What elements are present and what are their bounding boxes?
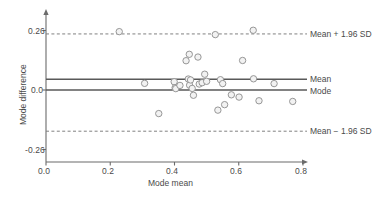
- data-point: [189, 85, 195, 91]
- data-point: [212, 31, 218, 37]
- data-point: [271, 80, 277, 86]
- data-point: [236, 94, 242, 100]
- data-point: [250, 76, 256, 82]
- data-point: [190, 92, 196, 98]
- xtick-label-1: 0.2: [102, 166, 114, 176]
- mean-label: Mean: [310, 74, 331, 84]
- xtick-label-0: 0.0: [38, 166, 50, 176]
- data-point: [202, 71, 208, 77]
- data-point: [215, 107, 221, 113]
- y-axis-arrow: [43, 9, 48, 15]
- upper-loa-label: Mean + 1.96 SD: [310, 29, 372, 39]
- data-point: [177, 82, 183, 88]
- ytick-label-1: 0.0: [31, 85, 43, 95]
- data-point: [183, 58, 189, 64]
- ytick-label-0: 0.26: [28, 26, 45, 36]
- bland-altman-chart: 0.26 0.0 -0.26 0.0 0.2 0.4 0.6 0.8 Mode …: [0, 0, 382, 204]
- data-point: [187, 77, 193, 83]
- mode-label: Mode: [310, 86, 331, 96]
- data-point: [219, 80, 225, 86]
- data-point: [256, 98, 262, 104]
- lower-loa-label: Mean − 1.96 SD: [310, 126, 372, 136]
- data-point: [221, 101, 227, 107]
- data-point: [250, 27, 256, 33]
- data-point: [171, 79, 177, 85]
- xtick-label-2: 0.4: [166, 166, 178, 176]
- data-point: [239, 57, 245, 63]
- x-axis-title: Mode mean: [148, 178, 193, 188]
- xtick-label-4: 0.8: [295, 166, 307, 176]
- data-point: [186, 51, 192, 57]
- xtick-label-3: 0.6: [230, 166, 242, 176]
- data-point: [195, 54, 201, 60]
- data-point: [156, 110, 162, 116]
- ytick-label-2: -0.26: [25, 145, 45, 155]
- data-point: [203, 78, 209, 84]
- data-point: [228, 92, 234, 98]
- data-point: [116, 28, 122, 34]
- data-point: [290, 98, 296, 104]
- y-axis-title: Mode difference: [18, 64, 28, 125]
- scatter-points-group: [116, 27, 296, 117]
- data-point: [141, 80, 147, 86]
